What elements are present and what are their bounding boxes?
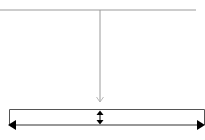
- horizontal-dimension-arrow: [8, 120, 205, 130]
- arrowhead-up-icon: [97, 111, 104, 116]
- vertical-dimension-arrow: [97, 111, 104, 125]
- arrowhead-down-icon: [97, 120, 104, 125]
- outline-box: [10, 110, 205, 126]
- diagram-canvas: [0, 0, 205, 140]
- arrowhead-right-icon: [197, 120, 205, 130]
